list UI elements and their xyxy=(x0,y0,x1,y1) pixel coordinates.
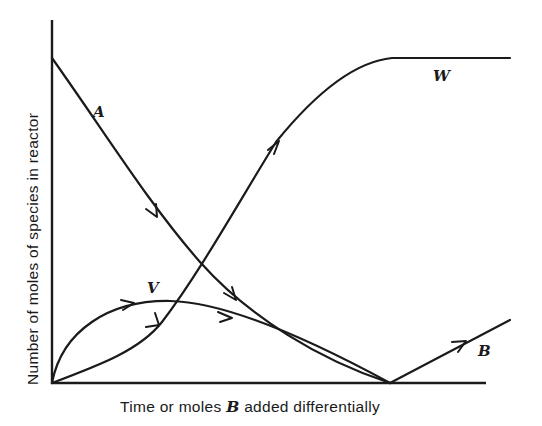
label-w: W xyxy=(433,67,452,85)
arrow-icon xyxy=(146,313,159,327)
label-a: A xyxy=(91,103,105,121)
reaction-moles-diagram: A W V B Time or moles B added differenti… xyxy=(0,0,542,426)
arrow-icon xyxy=(146,204,157,217)
arrow-icon xyxy=(218,312,232,322)
label-b: B xyxy=(477,342,491,360)
label-v: V xyxy=(147,279,160,297)
curve-w xyxy=(52,58,510,383)
curve-b xyxy=(390,320,510,383)
y-axis-label: Number of moles of species in reactor xyxy=(24,113,41,385)
x-axis-label: Time or moles B added differentially xyxy=(120,397,380,416)
